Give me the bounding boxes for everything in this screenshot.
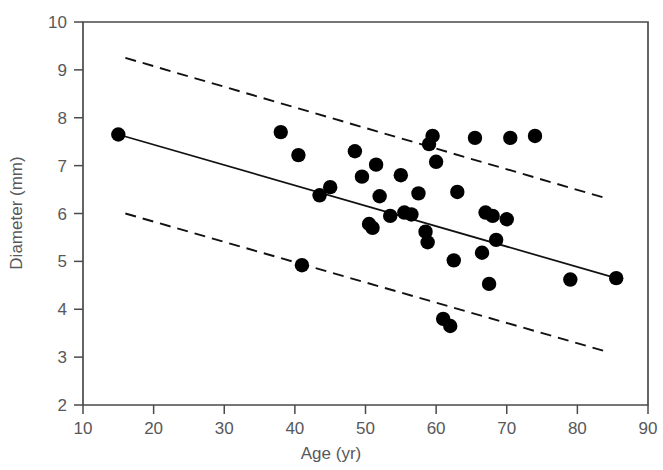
data-point xyxy=(447,253,461,267)
plot-canvas: 102030405060708090 2345678910 Age (yr) D… xyxy=(0,0,663,470)
data-point xyxy=(404,207,418,221)
data-point xyxy=(348,144,362,158)
y-tick-label: 4 xyxy=(58,300,67,319)
data-point xyxy=(274,125,288,139)
plot-frame xyxy=(83,22,648,405)
regression-line xyxy=(118,135,616,279)
data-points xyxy=(111,125,623,333)
data-point xyxy=(323,180,337,194)
y-axis-tick-labels: 2345678910 xyxy=(48,13,67,415)
data-point xyxy=(475,246,489,260)
data-point xyxy=(443,319,457,333)
y-tick-label: 3 xyxy=(58,348,67,367)
data-point xyxy=(485,209,499,223)
scatter-plot-figure: 102030405060708090 2345678910 Age (yr) D… xyxy=(0,0,663,470)
y-axis-title: Diameter (mm) xyxy=(7,156,26,269)
data-point xyxy=(500,212,514,226)
y-tick-label: 7 xyxy=(58,157,67,176)
x-axis-tick-labels: 102030405060708090 xyxy=(74,419,658,438)
data-point xyxy=(450,185,464,199)
y-tick-label: 6 xyxy=(58,205,67,224)
x-tick-label: 50 xyxy=(356,419,375,438)
y-tick-label: 9 xyxy=(58,61,67,80)
data-point xyxy=(291,148,305,162)
data-point xyxy=(489,233,503,247)
data-point xyxy=(482,277,496,291)
x-tick-label: 60 xyxy=(427,419,446,438)
x-axis-title: Age (yr) xyxy=(301,444,361,463)
data-point xyxy=(383,209,397,223)
y-tick-label: 8 xyxy=(58,109,67,128)
x-tick-label: 20 xyxy=(144,419,163,438)
data-point xyxy=(468,131,482,145)
prediction-band-lines xyxy=(125,58,609,352)
x-tick-label: 80 xyxy=(568,419,587,438)
data-point xyxy=(355,169,369,183)
y-axis-ticks xyxy=(74,22,83,405)
data-point xyxy=(563,272,577,286)
data-point xyxy=(372,189,386,203)
data-point xyxy=(111,127,125,141)
prediction-band-lower xyxy=(125,214,609,353)
data-point xyxy=(503,131,517,145)
y-tick-label: 2 xyxy=(58,396,67,415)
data-point xyxy=(609,271,623,285)
data-point xyxy=(365,221,379,235)
data-point xyxy=(411,186,425,200)
y-tick-label: 10 xyxy=(48,13,67,32)
x-tick-label: 40 xyxy=(285,419,304,438)
data-point xyxy=(429,155,443,169)
fitted-line xyxy=(118,135,616,279)
data-point xyxy=(369,157,383,171)
data-point xyxy=(394,168,408,182)
data-point xyxy=(425,129,439,143)
axis-frame xyxy=(83,22,648,405)
x-tick-label: 70 xyxy=(497,419,516,438)
y-tick-label: 5 xyxy=(58,252,67,271)
x-tick-label: 30 xyxy=(215,419,234,438)
data-point xyxy=(295,258,309,272)
x-tick-label: 10 xyxy=(74,419,93,438)
x-tick-label: 90 xyxy=(639,419,658,438)
data-point xyxy=(420,235,434,249)
data-point xyxy=(528,129,542,143)
x-axis-ticks xyxy=(83,405,648,414)
